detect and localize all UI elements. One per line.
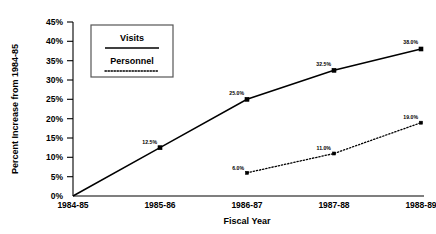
x-tick-label-1988-89: 1988-89 xyxy=(405,200,436,210)
data-labels-personnel: 6.0% 11.0% 19.0% xyxy=(232,114,418,171)
y-tick-label-40: 40% xyxy=(46,36,63,46)
data-label-visits-1987-88: 32.5% xyxy=(316,61,331,67)
y-tick-label-10: 10% xyxy=(46,152,63,162)
x-tick-label-1986-87: 1986-87 xyxy=(231,200,262,210)
data-label-personnel-1987-88: 11.0% xyxy=(317,145,332,151)
y-axis-ticks xyxy=(67,22,73,177)
y-tick-label-20: 20% xyxy=(46,114,63,124)
x-axis-tick-labels: 1984-85 1985-86 1986-87 1987-88 1988-89 xyxy=(57,200,436,210)
y-tick-label-25: 25% xyxy=(46,94,63,104)
data-point-visits-1987-88 xyxy=(332,68,336,72)
y-axis-tick-labels: 45% 40% 35% 30% 25% 20% 15% 10% 5% 0% xyxy=(46,17,63,201)
x-tick-label-1987-88: 1987-88 xyxy=(318,200,349,210)
series-line-personnel xyxy=(247,123,421,173)
y-tick-label-30: 30% xyxy=(46,75,63,85)
data-label-personnel-1988-89: 19.0% xyxy=(403,114,418,120)
data-point-personnel-1986-87 xyxy=(246,171,249,174)
data-labels-visits: 12.5% 25.0% 32.5% 38.0% xyxy=(142,39,418,145)
y-tick-label-15: 15% xyxy=(46,133,63,143)
x-axis-title: Fiscal Year xyxy=(224,216,271,226)
x-tick-label-1984-85: 1984-85 xyxy=(57,200,88,210)
data-label-visits-1988-89: 38.0% xyxy=(403,39,418,45)
y-axis-title: Percent Increase from 1984-85 xyxy=(10,44,20,174)
series-markers-visits xyxy=(158,47,423,150)
y-tick-label-45: 45% xyxy=(46,17,63,27)
data-point-personnel-1988-89 xyxy=(420,121,423,124)
data-point-visits-1985-86 xyxy=(158,146,162,150)
y-tick-label-35: 35% xyxy=(46,56,63,66)
data-label-visits-1986-87: 25.0% xyxy=(229,90,244,96)
data-point-visits-1986-87 xyxy=(245,97,249,101)
data-point-visits-1988-89 xyxy=(419,47,423,51)
data-label-visits-1985-86: 12.5% xyxy=(142,139,157,145)
data-point-personnel-1987-88 xyxy=(333,152,336,155)
chart-legend: Visits Personnel xyxy=(91,25,173,77)
y-tick-label-5: 5% xyxy=(51,172,64,182)
data-label-personnel-1986-87: 6.0% xyxy=(232,165,244,171)
x-tick-label-1985-86: 1985-86 xyxy=(144,200,175,210)
legend-item-personnel-label: Personnel xyxy=(110,56,154,66)
line-chart-canvas: 45% 40% 35% 30% 25% 20% 15% 10% 5% 0% Pe… xyxy=(0,0,436,234)
series-markers-personnel xyxy=(246,121,423,174)
chart-figure: 45% 40% 35% 30% 25% 20% 15% 10% 5% 0% Pe… xyxy=(0,0,436,234)
legend-item-visits-label: Visits xyxy=(120,33,144,43)
